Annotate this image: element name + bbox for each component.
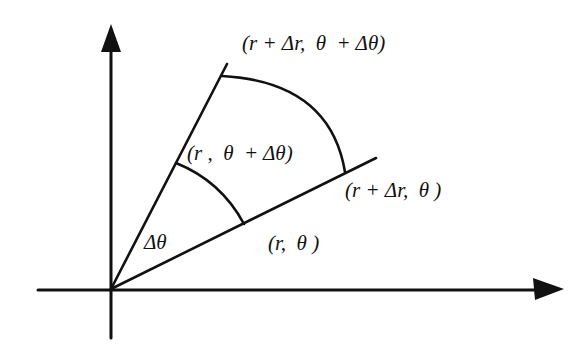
y-axis-arrowhead-icon [101, 24, 121, 52]
label-angle-dtheta: Δθ [144, 232, 167, 253]
x-axis-arrowhead-icon [533, 278, 564, 300]
polar-area-element-diagram: (r + Δr, θ + Δθ) (r , θ + Δθ) (r + Δr, θ… [0, 0, 584, 349]
label-inner-corner-bottom: (r, θ ) [268, 233, 319, 254]
inner-arc [176, 163, 244, 224]
label-outer-corner: (r + Δr, θ + Δθ) [242, 33, 385, 54]
label-inner-corner-top: (r , θ + Δθ) [187, 143, 293, 164]
ray-theta-plus-dtheta [111, 64, 227, 289]
label-outer-corner-bottom: (r + Δr, θ ) [345, 180, 441, 201]
